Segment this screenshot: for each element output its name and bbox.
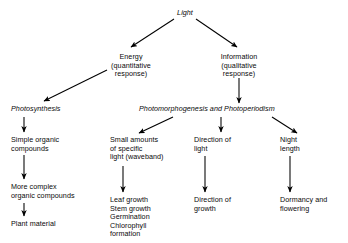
node-photomorphogenesis: Photomorphogenesis and Photoperiodism — [139, 105, 339, 114]
edge-light-to-information — [196, 19, 237, 47]
node-plant-material: Plant material — [11, 220, 103, 229]
edge-photomorphogenesis-to-small-amounts — [139, 117, 173, 133]
edge-light-to-energy — [131, 19, 174, 47]
node-night-length: Night length — [280, 136, 342, 153]
node-leaf-growth-list: Leaf growth Stem growth Germination Chlo… — [110, 196, 190, 239]
node-dormancy-and-flowering: Dormancy and flowering — [280, 196, 348, 213]
node-more-complex-organic-compounds: More complex organic compounds — [11, 183, 111, 200]
node-direction-of-light: Direction of light — [194, 136, 264, 153]
node-direction-of-growth: Direction of growth — [194, 196, 264, 213]
node-light: Light — [161, 9, 209, 18]
node-energy: Energy (quantitative response) — [95, 53, 167, 79]
node-small-amounts-of-specific-light: Small amounts of specific light (waveban… — [110, 136, 190, 162]
node-information: Information (qualitative response) — [201, 53, 277, 79]
edge-photomorphogenesis-to-night-length — [272, 117, 297, 133]
node-photosynthesis: Photosynthesis — [11, 105, 101, 114]
flowchart-diagram: Light Energy (quantitative response) Inf… — [0, 0, 348, 243]
node-simple-organic-compounds: Simple organic compounds — [11, 136, 103, 153]
